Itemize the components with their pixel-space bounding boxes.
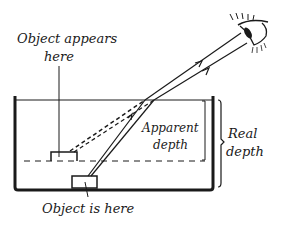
arrow-air-2: [202, 68, 209, 75]
real-object: [72, 176, 97, 188]
virtual-ray-1: [70, 100, 145, 151]
eye-icon: [230, 13, 268, 53]
ray-underwater-2: [91, 100, 154, 176]
apparent-depth-bracket: [202, 101, 205, 160]
label-object-appears-1: Object appears: [17, 31, 117, 46]
label-object-appears-2: here: [44, 49, 74, 64]
label-apparent-depth: depth: [153, 138, 188, 152]
refraction-diagram: Object appears here Object is here Appar…: [0, 0, 282, 225]
label-real: Real: [227, 126, 257, 141]
label-apparent: Apparent: [141, 121, 199, 135]
ray-air-2: [154, 43, 247, 100]
real-depth-bracket: [218, 100, 224, 187]
label-real-depth: depth: [226, 144, 264, 159]
label-object-is-here: Object is here: [42, 201, 135, 216]
ray-air-1: [145, 33, 241, 100]
ray-underwater-1: [88, 100, 145, 176]
apparent-object: [51, 152, 77, 161]
